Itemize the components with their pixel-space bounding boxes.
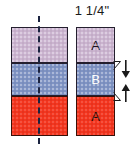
fabric-strip-diagram: 1 1/4" A B A	[0, 0, 132, 144]
arrow-down-icon	[122, 60, 130, 78]
arrow-up-icon	[122, 84, 130, 102]
width-dimension-label: 1 1/4"	[62, 3, 122, 18]
right-strip-middle-label: B	[91, 73, 100, 86]
right-strip-block: A B A	[76, 27, 115, 136]
right-strip-bottom-label: A	[91, 110, 100, 123]
right-strip-top-label: A	[91, 39, 100, 52]
right-strip-middle-blue-b: B	[76, 63, 115, 96]
lower-extension-line	[114, 93, 121, 101]
height-dimension-arrows	[113, 60, 132, 102]
right-strip-bottom-red-a: A	[76, 96, 115, 136]
right-strip-top-purple-a: A	[76, 27, 115, 63]
upper-extension-line	[114, 62, 121, 70]
dashed-center-fold-line	[38, 16, 40, 144]
